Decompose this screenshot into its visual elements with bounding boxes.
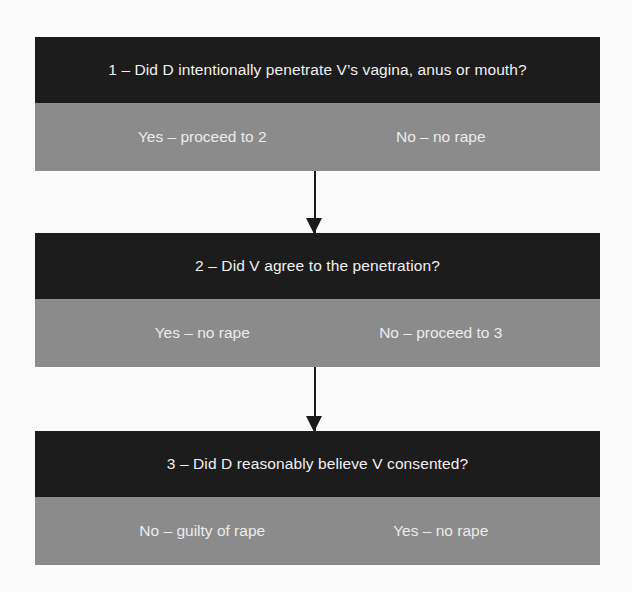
step-3: 3 – Did D reasonably believe V consented… [35,431,600,565]
step-2-answer-yes: Yes – no rape [83,324,322,342]
step-1-answer-no: No – no rape [322,128,561,146]
step-2: 2 – Did V agree to the penetration? Yes … [35,233,600,367]
step-1-question: 1 – Did D intentionally penetrate V’s va… [35,37,600,103]
step-3-question: 3 – Did D reasonably believe V consented… [35,431,600,497]
step-3-answer-no: No – guilty of rape [83,522,322,540]
step-2-answers: Yes – no rape No – proceed to 3 [35,299,600,367]
step-3-answer-yes: Yes – no rape [322,522,561,540]
step-2-question: 2 – Did V agree to the penetration? [35,233,600,299]
step-2-answer-no: No – proceed to 3 [322,324,561,342]
step-1-answers: Yes – proceed to 2 No – no rape [35,103,600,171]
step-1: 1 – Did D intentionally penetrate V’s va… [35,37,600,171]
step-3-answers: No – guilty of rape Yes – no rape [35,497,600,565]
arrow-down-icon [314,367,316,431]
step-1-answer-yes: Yes – proceed to 2 [83,128,322,146]
arrow-down-icon [314,171,316,233]
